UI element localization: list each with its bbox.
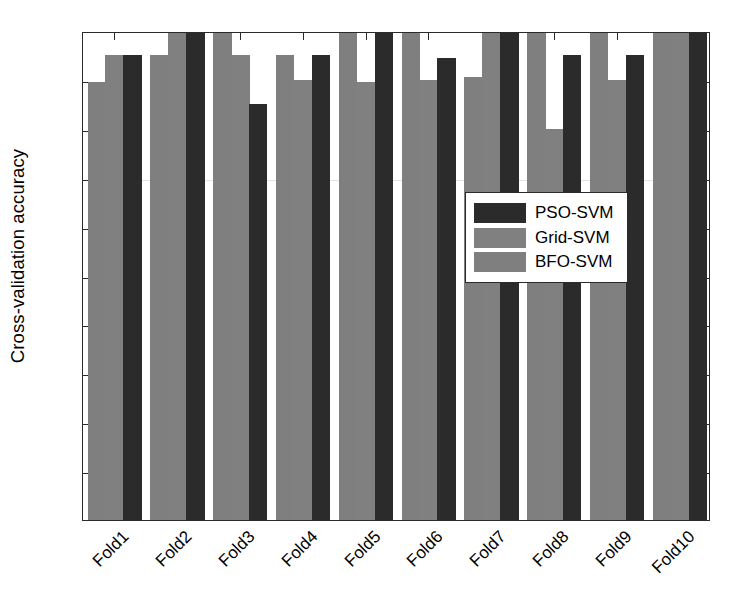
bar: [105, 55, 123, 520]
x-tick-mark: [617, 33, 618, 40]
bar: [339, 32, 357, 520]
legend-item: Grid-SVM: [474, 226, 618, 249]
legend-label: PSO-SVM: [535, 203, 613, 223]
legend-rows: PSO-SVMGrid-SVMBFO-SVM: [474, 202, 618, 274]
bar: [402, 32, 420, 520]
bar: [419, 80, 437, 520]
legend-label: BFO-SVM: [535, 252, 612, 272]
bar: [276, 55, 294, 520]
x-tick-mark: [366, 33, 367, 40]
bar: [375, 32, 393, 520]
y-axis-title: Cross-validation accuracy: [7, 6, 29, 506]
bar: [626, 55, 644, 520]
bar: [464, 77, 482, 520]
legend-item: PSO-SVM: [474, 202, 618, 225]
bar: [231, 55, 249, 520]
bar: [88, 82, 106, 520]
bar: [689, 32, 707, 520]
x-tick-mark: [114, 33, 115, 40]
bar: [294, 80, 312, 520]
x-tick-mark: [240, 33, 241, 40]
legend-label: Grid-SVM: [535, 228, 610, 248]
x-tick-mark: [428, 33, 429, 40]
legend: PSO-SVMGrid-SVMBFO-SVM: [465, 192, 628, 283]
bar: [545, 129, 563, 520]
bar: [168, 32, 186, 520]
legend-swatch: [474, 203, 526, 223]
bar: [671, 32, 689, 520]
legend-swatch: [474, 252, 526, 272]
x-tick-mark: [554, 33, 555, 40]
legend-item: BFO-SVM: [474, 251, 618, 274]
bar: [563, 55, 581, 520]
bar: [249, 104, 267, 520]
bar: [213, 32, 231, 520]
bar-chart-figure: Cross-validation accuracy 00.10.20.30.40…: [0, 0, 740, 610]
bar: [653, 32, 671, 520]
legend-swatch: [474, 228, 526, 248]
bar: [150, 55, 168, 520]
bar: [312, 55, 330, 520]
x-tick-mark: [303, 33, 304, 40]
bar: [437, 58, 455, 520]
bar: [123, 55, 141, 520]
bar: [357, 82, 375, 520]
bar: [186, 32, 204, 520]
bar: [608, 80, 626, 520]
